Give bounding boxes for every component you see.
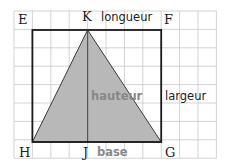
label-longueur: longueur <box>101 10 152 24</box>
point-H: H <box>19 145 30 160</box>
label-hauteur: hauteur <box>91 89 143 103</box>
triangle-rectangle-diagram: E K F H J G longueur largeur hauteur bas… <box>0 0 225 166</box>
label-largeur: largeur <box>165 89 206 103</box>
point-K: K <box>82 9 92 24</box>
point-E: E <box>18 12 28 27</box>
point-F: F <box>164 12 173 27</box>
label-base: base <box>97 145 128 159</box>
point-J: J <box>81 145 88 160</box>
point-G: G <box>165 145 175 160</box>
triangle-hkg <box>32 30 161 142</box>
